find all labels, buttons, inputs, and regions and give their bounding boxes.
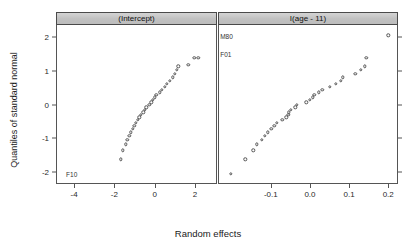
x-tick-label: 0.0	[304, 190, 315, 199]
x-tick-label: -0.1	[264, 190, 278, 199]
data-point	[308, 98, 311, 101]
point-label: F01	[220, 50, 231, 57]
data-point	[281, 118, 284, 121]
data-point	[124, 143, 127, 146]
data-point	[155, 93, 158, 96]
data-point	[151, 98, 154, 101]
data-point	[136, 118, 139, 121]
y-tick-mark	[398, 138, 402, 139]
x-tick-label: 0	[152, 190, 156, 199]
data-point	[313, 93, 316, 96]
x-tick-mark	[114, 184, 115, 188]
data-point	[263, 134, 266, 137]
data-point	[134, 121, 137, 124]
data-point	[295, 103, 298, 106]
y-tick-mark	[398, 104, 402, 105]
data-point	[131, 127, 134, 130]
x-tick-label: 2	[193, 190, 197, 199]
data-point	[128, 134, 131, 137]
data-point	[119, 158, 122, 161]
data-point	[387, 33, 390, 36]
data-point	[317, 91, 320, 94]
data-point	[168, 79, 171, 82]
y-tick-label: 2	[45, 32, 49, 41]
x-tick-mark	[271, 184, 272, 188]
data-point	[339, 79, 342, 82]
x-tick-mark	[310, 184, 311, 188]
data-point	[363, 65, 366, 68]
data-point	[165, 82, 168, 85]
data-point	[321, 88, 324, 91]
data-point	[270, 127, 273, 130]
y-tick-mark	[398, 70, 402, 71]
point-label: M80	[220, 33, 233, 40]
data-point	[121, 148, 124, 151]
data-point	[129, 131, 132, 134]
chart-root: Quantiles of standard normal Random effe…	[0, 0, 416, 247]
x-tick-label: -4	[71, 190, 78, 199]
x-tick-label: 0.2	[383, 190, 394, 199]
data-point	[244, 158, 247, 161]
data-point	[252, 148, 255, 151]
data-point	[126, 138, 129, 141]
data-point	[341, 76, 344, 79]
data-point	[255, 143, 258, 146]
data-point	[160, 88, 163, 91]
x-tick-mark	[388, 184, 389, 188]
plot-area-1: M80F01	[218, 25, 398, 184]
data-point	[266, 131, 269, 134]
panel-strip-title-1: I(age - 11)	[218, 12, 398, 25]
x-tick-label: 0.1	[344, 190, 355, 199]
y-tick-label: -2	[42, 168, 49, 177]
y-tick-label: 0	[45, 100, 49, 109]
data-point	[173, 72, 176, 75]
data-point	[133, 124, 136, 127]
y-tick-label: -1	[42, 134, 49, 143]
data-point	[145, 106, 148, 109]
y-tick-mark	[398, 172, 402, 173]
x-tick-mark	[195, 184, 196, 188]
data-point	[364, 56, 367, 59]
data-point	[197, 56, 200, 59]
data-point	[158, 91, 161, 94]
x-tick-mark	[74, 184, 75, 188]
data-point	[177, 65, 180, 68]
data-point	[163, 85, 166, 88]
data-point	[334, 82, 337, 85]
panel-strip-title-0: (Intercept)	[56, 12, 217, 25]
data-point	[305, 101, 308, 104]
data-point	[143, 108, 146, 111]
data-point	[175, 68, 178, 71]
x-tick-label: -2	[111, 190, 118, 199]
data-point	[171, 76, 174, 79]
plot-area-0: F10	[56, 25, 217, 184]
panel-intercept: (Intercept) F10 -4-202	[56, 12, 217, 184]
data-point	[275, 121, 278, 124]
x-tick-mark	[155, 184, 156, 188]
point-label: F10	[66, 170, 77, 177]
y-tick-label: 1	[45, 66, 49, 75]
data-point	[289, 108, 292, 111]
data-point	[287, 113, 290, 116]
x-axis-title: Random effects	[0, 228, 416, 239]
data-point	[272, 124, 275, 127]
y-axis-title: Quantiles of standard normal	[9, 20, 19, 200]
x-tick-mark	[349, 184, 350, 188]
data-point	[359, 68, 362, 71]
data-point	[187, 63, 190, 66]
data-point	[229, 172, 232, 175]
panel-age: I(age - 11) M80F01 -0.10.00.10.2	[218, 12, 398, 184]
y-tick-mark	[398, 36, 402, 37]
data-point	[353, 72, 356, 75]
data-point	[139, 113, 142, 116]
data-point	[260, 138, 263, 141]
data-point	[328, 85, 331, 88]
